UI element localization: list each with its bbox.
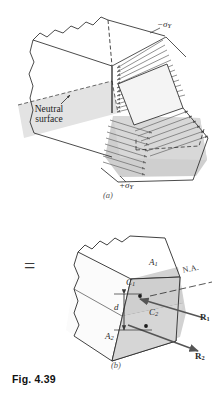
label-force-R1: R1 [200, 313, 210, 323]
label-sigma-tension: +σY [119, 181, 133, 191]
label-neutral-surface: Neutral surface [23, 105, 75, 125]
label-distance-d: d [114, 303, 119, 312]
lower-block-a [105, 116, 207, 177]
label-centroid-C1: C1 [126, 278, 135, 288]
panel-a-group [18, 17, 208, 182]
centroid-C2-dot [144, 324, 148, 328]
panel-label-a: (a) [103, 191, 113, 200]
equals-sign: = [24, 255, 35, 278]
figure-caption: Fig. 4.39 [12, 374, 56, 385]
label-centroid-C2: C2 [149, 308, 158, 318]
label-force-R2: R2 [195, 352, 205, 362]
label-sigma-compression: −σY [157, 20, 171, 30]
centroid-C1-dot [138, 294, 142, 298]
panel-label-b: (b) [111, 361, 121, 370]
label-area-A1: A1 [149, 258, 158, 268]
label-area-A2: A2 [105, 332, 114, 342]
panel-b-group [66, 236, 212, 361]
figure-4-39: −σY +σY Neutral surface (a) = A1 C1 C2 d… [0, 0, 220, 395]
